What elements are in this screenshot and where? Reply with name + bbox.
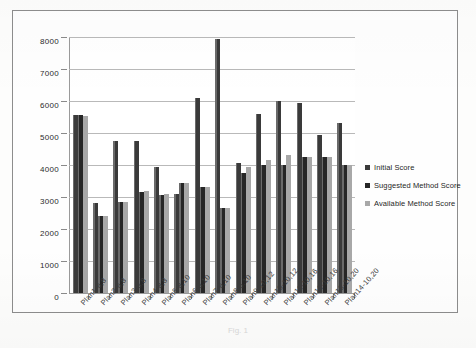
legend-swatch-icon [365,165,370,170]
bar-group [233,37,253,293]
legend-label: Available Method Score [374,199,455,208]
legend-swatch-icon [365,201,370,206]
bar-series-container [70,37,355,293]
y-tick-label-2000: 2000 [40,229,59,230]
y-tick-0 [61,293,67,294]
legend-item[interactable]: Suggested Method Score [365,181,465,190]
y-tick-7000 [61,69,67,70]
bar-group [335,37,355,293]
y-tick-label-3000: 3000 [40,197,59,198]
bar-group [90,37,110,293]
y-tick-label-0: 0 [54,293,59,294]
legend-item[interactable]: Initial Score [365,163,465,172]
figure-caption: Fig. 1 [0,326,476,335]
bar-available[interactable] [83,116,88,293]
bar-group [253,37,273,293]
bar-group [131,37,151,293]
chart-legend: Initial ScoreSuggested Method ScoreAvail… [365,163,465,217]
y-tick-label-1000: 1000 [40,261,59,262]
bar-group [274,37,294,293]
bar-group [294,37,314,293]
y-tick-3000 [61,197,67,198]
y-tick-6000 [61,101,67,102]
y-tick-5000 [61,133,67,134]
bar-group [314,37,334,293]
bar-group [151,37,171,293]
y-tick-2000 [61,229,67,230]
legend-label: Suggested Method Score [374,181,461,190]
y-tick-label-7000: 7000 [40,69,59,70]
bar-group [213,37,233,293]
y-tick-label-4000: 4000 [40,165,59,166]
plot-area: 010002000300040005000600070008000 [69,37,355,294]
bar-group [192,37,212,293]
y-tick-1000 [61,261,67,262]
bar-group [70,37,90,293]
y-tick-label-8000: 8000 [40,37,59,38]
legend-label: Initial Score [374,163,415,172]
legend-item[interactable]: Available Method Score [365,199,465,208]
chart-page: 010002000300040005000600070008000 Plan1-… [0,0,476,348]
y-tick-label-5000: 5000 [40,133,59,134]
y-tick-label-6000: 6000 [40,101,59,102]
bar-group [172,37,192,293]
bar-group [111,37,131,293]
y-tick-8000 [61,37,67,38]
chart-frame: 010002000300040005000600070008000 Plan1-… [12,10,458,313]
legend-swatch-icon [365,183,370,188]
y-tick-4000 [61,165,67,166]
